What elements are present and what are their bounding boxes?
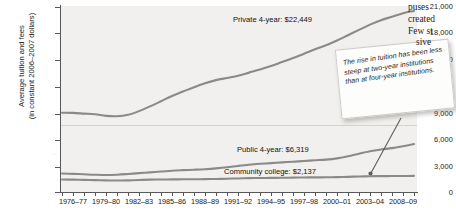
- series-label-public-4-year: Public 4-year: $6,319: [237, 146, 309, 154]
- body-text-fragment: puses: [408, 2, 456, 14]
- series-label-community-college: Community college: $2,137: [224, 168, 316, 176]
- page-body-text: puses created Few st sive: [408, 2, 456, 49]
- annotation-callout-text: The rise in tuition has been less steep …: [342, 44, 449, 87]
- series-line-community-college: [62, 176, 414, 181]
- body-text-fragment: created: [408, 14, 456, 26]
- body-text-fragment: sive: [408, 37, 456, 49]
- series-label-private-4-year: Private 4-year: $22,449: [233, 16, 312, 24]
- body-text-fragment: Few st: [408, 26, 456, 38]
- annotation-callout: The rise in tuition has been less steep …: [335, 39, 455, 120]
